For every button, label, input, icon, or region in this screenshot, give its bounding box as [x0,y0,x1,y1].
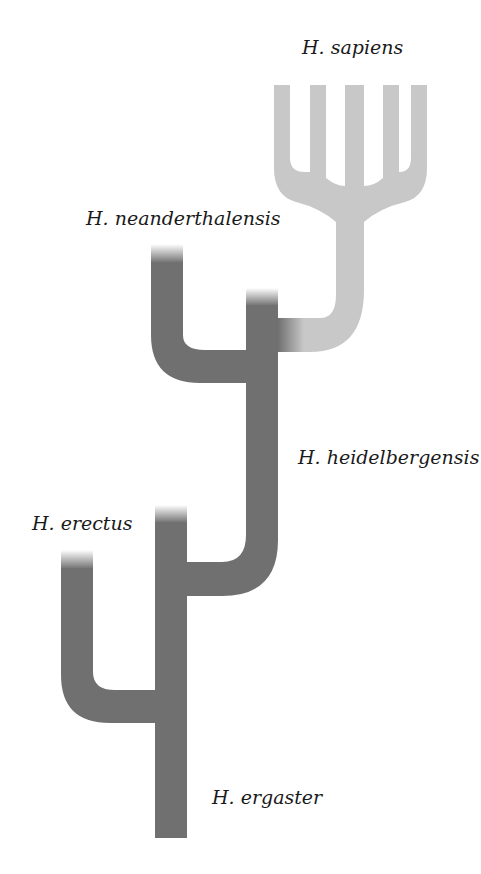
label-ergaster: H. ergaster [212,786,322,808]
label-neanderthalensis: H. neanderthalensis [86,207,281,229]
ergaster-to-heidelbergensis-branch [187,500,278,596]
label-heidelbergensis: H. heidelbergensis [298,446,479,468]
neanderthalensis-branch [151,244,246,383]
erectus-branch [61,550,155,723]
ergaster-trunk [155,505,187,838]
phylogenetic-tree [0,0,481,874]
label-sapiens: H. sapiens [302,36,403,58]
heidelbergensis-trunk [246,288,278,505]
sapiens-branch [274,85,427,352]
label-erectus: H. erectus [32,512,132,534]
